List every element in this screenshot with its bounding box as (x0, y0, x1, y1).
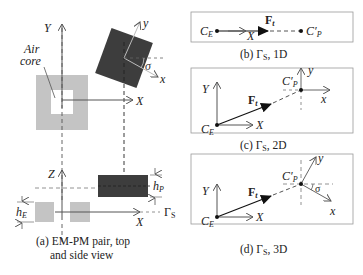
caption-b: (b) ΓS, 1D (240, 48, 287, 62)
caption-a-line2: and side view (50, 249, 114, 261)
force-label-c: Ft (248, 93, 258, 108)
axis-X-b: X (246, 29, 255, 43)
C-E-label-d: CE (201, 214, 214, 229)
panel-a-side-view: Z X ΓS hE hP (a) EM-PM pair, top and sid… (16, 167, 175, 261)
axis-label-X: X (135, 94, 144, 108)
axis-label-Z: Z (48, 167, 55, 181)
axis-label-X-side: X (135, 215, 144, 229)
em-pm-diagram: Y X Air core y x σ Z X ΓS hE (0, 0, 363, 275)
force-label-b: Ft (265, 13, 275, 28)
air-core-label-line2: core (20, 54, 42, 68)
angle-sigma-d: σ (315, 183, 321, 194)
panel-b-1d: CE C′P Ft X (b) ΓS, 1D (191, 12, 353, 62)
caption-c: (c) ΓS, 2D (240, 139, 287, 153)
pm-axis-x: x (159, 72, 166, 86)
angle-sigma: σ (145, 59, 152, 73)
panel-d-3d: CE C′P Ft X Y x y σ (d) ΓS, 3D (191, 151, 353, 257)
axis-x-c: x (320, 92, 327, 106)
axis-Y-d: Y (202, 184, 210, 198)
C-P-label-d: C′P (282, 169, 298, 184)
panel-c-2d: CE C′P Ft X Y x y (c) ΓS, 2D (191, 63, 353, 153)
C-E-label-b: CE (200, 24, 213, 39)
axis-X-d: X (255, 210, 264, 224)
axis-label-Y: Y (44, 21, 52, 35)
caption-d: (d) ΓS, 3D (240, 243, 287, 257)
axis-Y-c: Y (202, 82, 210, 96)
h-P-label: hP (153, 179, 164, 194)
C-P-label-c: C′P (282, 74, 298, 89)
gamma-s-label: ΓS (164, 205, 175, 220)
h-E-label: hE (16, 205, 27, 220)
force-label-d: Ft (248, 185, 258, 200)
caption-a-line1: (a) EM-PM pair, top (36, 235, 130, 248)
axis-y-d: y (317, 151, 324, 165)
axis-x-d: x (329, 204, 336, 218)
C-E-label-c: CE (201, 122, 214, 137)
axis-y-c: y (307, 63, 314, 77)
pm-axis-y: y (142, 16, 149, 30)
C-P-label-b: C′P (306, 24, 322, 39)
axis-X-c: X (255, 118, 264, 132)
